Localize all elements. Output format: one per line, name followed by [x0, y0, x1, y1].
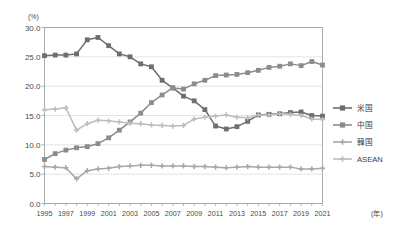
data-point-marker — [299, 166, 304, 171]
data-point-marker — [170, 123, 175, 128]
data-point-marker — [127, 163, 132, 168]
data-point-marker — [149, 64, 154, 69]
x-tick-label: 2019 — [293, 209, 309, 218]
data-point-marker — [202, 78, 207, 83]
data-point-marker — [106, 166, 111, 171]
data-point-marker — [138, 111, 143, 116]
legend-item-3[interactable]: 韓国 — [333, 137, 373, 147]
legend-item-2[interactable]: 中国 — [333, 120, 373, 130]
x-tick-label: 2013 — [229, 209, 245, 218]
y-tick-label: 10.0 — [25, 141, 41, 150]
x-tick-label: 1995 — [37, 209, 53, 218]
data-point-marker — [202, 107, 207, 112]
data-point-marker — [267, 65, 272, 70]
data-point-marker — [277, 165, 282, 170]
legend-item-1[interactable]: 米国 — [333, 103, 373, 113]
data-point-marker — [106, 118, 111, 123]
x-tick-label: 2001 — [101, 209, 117, 218]
data-point-marker — [96, 141, 101, 146]
x-tick-label: 2017 — [272, 209, 288, 218]
data-point-marker — [213, 165, 218, 170]
x-tick-label: 2005 — [143, 209, 159, 218]
data-point-marker — [224, 112, 229, 117]
data-point-marker — [42, 164, 47, 169]
data-point-marker — [149, 163, 154, 168]
series-2 — [42, 59, 325, 162]
data-point-marker — [266, 165, 271, 170]
data-point-marker — [42, 157, 47, 162]
x-axis-unit-label: (年) — [371, 209, 383, 218]
data-point-marker — [53, 151, 58, 156]
data-point-marker — [53, 53, 58, 58]
line-chart: 0.05.010.015.020.025.030.0 1995199719992… — [0, 0, 402, 236]
data-point-marker — [53, 106, 58, 111]
legend-marker-icon — [340, 122, 345, 127]
x-tick-label: 1997 — [58, 209, 74, 218]
x-tick-label: 2015 — [250, 209, 266, 218]
data-point-marker — [181, 163, 186, 168]
data-point-marker — [138, 61, 143, 66]
data-point-marker — [95, 118, 100, 123]
y-axis-tick-labels: 0.05.010.015.020.025.030.0 — [25, 24, 45, 209]
x-tick-label: 2021 — [315, 209, 331, 218]
data-point-marker — [138, 121, 143, 126]
data-point-marker — [160, 123, 165, 128]
data-point-marker — [117, 164, 122, 169]
data-point-marker — [149, 122, 154, 127]
data-point-marker — [160, 93, 165, 98]
data-point-marker — [213, 124, 218, 129]
data-point-marker — [213, 113, 218, 118]
data-point-marker — [181, 94, 186, 99]
data-point-marker — [181, 87, 186, 92]
x-tick-label: 2007 — [165, 209, 181, 218]
data-point-marker — [170, 163, 175, 168]
data-point-marker — [234, 165, 239, 170]
legend-label: ASEAN — [357, 155, 383, 164]
data-point-marker — [288, 61, 293, 66]
data-point-marker — [63, 105, 68, 110]
data-point-marker — [170, 86, 175, 91]
data-point-marker — [63, 53, 68, 58]
data-point-marker — [256, 165, 261, 170]
x-tick-label: 2011 — [208, 209, 223, 218]
data-point-marker — [224, 73, 229, 78]
data-point-marker — [224, 127, 229, 132]
x-tick-label: 2009 — [186, 209, 202, 218]
data-point-marker — [245, 164, 250, 169]
data-point-marker — [138, 163, 143, 168]
data-point-marker — [117, 119, 122, 124]
data-point-marker — [288, 165, 293, 170]
data-point-marker — [117, 52, 122, 57]
data-point-marker — [117, 128, 122, 133]
data-point-marker — [96, 35, 101, 40]
data-point-marker — [309, 59, 314, 64]
series-3 — [42, 163, 325, 182]
x-tick-label: 2003 — [122, 209, 138, 218]
data-point-marker — [235, 72, 240, 77]
data-point-marker — [192, 81, 197, 86]
y-tick-label: 0.0 — [29, 200, 41, 209]
legend-label: 米国 — [357, 103, 373, 113]
series-1 — [42, 35, 325, 131]
chart-container: 0.05.010.015.020.025.030.0 1995199719992… — [0, 0, 402, 236]
data-point-marker — [95, 166, 100, 171]
data-point-marker — [192, 164, 197, 169]
y-tick-label: 5.0 — [29, 170, 41, 179]
data-point-marker — [128, 54, 133, 59]
data-point-marker — [74, 52, 79, 57]
data-point-marker — [299, 63, 304, 68]
chart-legend: 米国中国韓国ASEAN — [333, 103, 383, 164]
y-axis-unit-label: (%) — [28, 13, 39, 21]
data-point-marker — [224, 165, 229, 170]
data-point-marker — [309, 166, 314, 171]
data-point-marker — [202, 164, 207, 169]
data-point-marker — [106, 43, 111, 48]
data-point-marker — [74, 145, 79, 150]
legend-label: 韓国 — [357, 137, 373, 147]
data-point-marker — [320, 166, 325, 171]
data-point-marker — [213, 73, 218, 78]
legend-item-4[interactable]: ASEAN — [333, 155, 383, 164]
data-point-marker — [85, 37, 90, 42]
legend-label: 中国 — [357, 120, 373, 130]
legend-marker-icon — [340, 156, 346, 162]
